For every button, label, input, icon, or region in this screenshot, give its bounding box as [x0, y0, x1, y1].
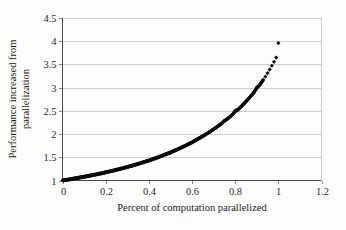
y-tick-label: 2.5 [43, 106, 56, 117]
y-tick-label: 2 [51, 129, 56, 140]
y-tick-label: 1.5 [43, 152, 56, 163]
x-tick-label: 0.8 [229, 186, 242, 197]
x-tick-label: 0.4 [143, 186, 157, 197]
x-tick-label: 0.2 [100, 186, 113, 197]
y-axis-title-line1: Performance increased from [7, 40, 18, 159]
chart-figure: 11.522.533.544.5 00.20.40.60.811.2 Perce… [0, 0, 346, 230]
x-axis-title: Percent of computation parallelized [117, 202, 267, 213]
y-tick-label: 3 [51, 83, 56, 94]
x-tick-label: 1.2 [316, 186, 329, 197]
amdahl-speedup-chart: 11.522.533.544.5 00.20.40.60.811.2 Perce… [0, 0, 346, 230]
y-tick-label: 4.5 [43, 13, 56, 24]
x-tick-label: 0.6 [186, 186, 199, 197]
y-tick-label: 1 [51, 176, 56, 187]
x-tick-label: 0 [61, 186, 66, 197]
y-tick-label: 3.5 [43, 59, 56, 70]
y-axis-title-line2: parallelization [20, 68, 31, 129]
x-tick-label: 1 [276, 186, 281, 197]
y-tick-label: 4 [51, 36, 57, 47]
